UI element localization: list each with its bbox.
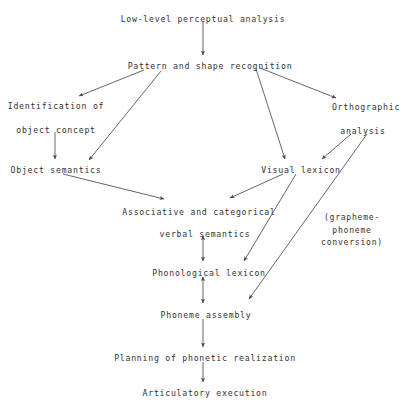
edge-pattern-to-object-semantics	[89, 71, 161, 160]
node-articulatory-execution[interactable]: Articulatory execution	[143, 387, 268, 400]
edge-pattern-to-identification	[79, 70, 144, 96]
node-orthographic[interactable]: Orthographic	[332, 101, 400, 114]
edge-analysis-to-visual-lexicon	[322, 134, 351, 159]
node-phonological-lexicon[interactable]: Phonological lexicon	[152, 267, 266, 280]
node-object-semantics[interactable]: Object semantics	[11, 164, 102, 177]
node-visual-lexicon[interactable]: Visual lexicon	[261, 164, 341, 177]
node-identification-of[interactable]: Identification of	[8, 100, 105, 113]
node-low-level-perceptual-analysis[interactable]: Low-level perceptual analysis	[121, 13, 286, 26]
node-planning-of-phonetic-realization[interactable]: Planning of phonetic realization	[114, 352, 296, 365]
edge-pattern-to-visual-lexicon	[256, 69, 285, 159]
node-phoneme-assembly[interactable]: Phoneme assembly	[161, 309, 252, 322]
annotation-grapheme-phoneme-conversion: (grapheme- phoneme conversion)	[321, 211, 383, 249]
edge-object-semantics-to-associative	[63, 174, 164, 199]
edge-pattern-to-orthographic	[260, 68, 336, 98]
edge-visual-lexicon-to-associative	[230, 174, 283, 198]
flow-diagram: Low-level perceptual analysis Pattern an…	[0, 0, 406, 417]
node-verbal-semantics[interactable]: verbal semantics	[160, 228, 251, 241]
node-analysis[interactable]: analysis	[340, 125, 385, 138]
node-pattern-and-shape-recognition[interactable]: Pattern and shape recognition	[128, 60, 293, 73]
node-object-concept[interactable]: object concept	[16, 124, 96, 137]
node-associative-and-categorical[interactable]: Associative and categorical	[122, 206, 275, 219]
